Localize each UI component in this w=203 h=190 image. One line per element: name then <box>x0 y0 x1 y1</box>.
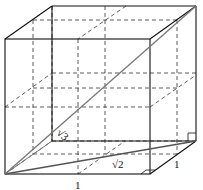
sqrt2-label: √2 <box>112 158 124 170</box>
face-diagonal <box>5 141 196 174</box>
front-edge-label: 1 <box>75 179 81 190</box>
right-angle-marker-back <box>188 133 196 141</box>
cube-diagram: √3 √2 1 1 <box>0 0 203 190</box>
diagonal-helper <box>5 141 52 174</box>
side-edge-label: 1 <box>174 158 180 170</box>
space-diagonal <box>5 6 196 174</box>
